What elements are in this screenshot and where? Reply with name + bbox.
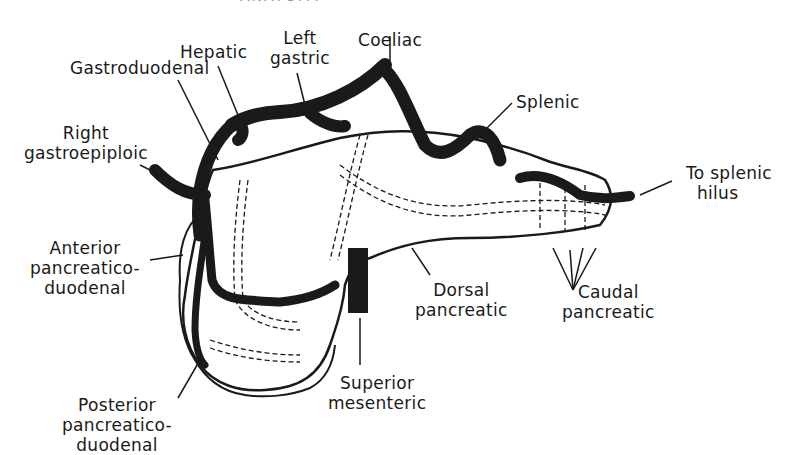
pancreas-blood-supply-diagram: ANATOMY <box>0 0 794 455</box>
label-caudal-pancreatic: Caudal pancreatic <box>562 282 655 322</box>
superior-mesenteric-vessel <box>348 248 368 313</box>
pancreas-outline <box>183 131 611 390</box>
label-superior-mesenteric: Superior mesenteric <box>328 373 426 413</box>
label-left-gastric: Left gastric <box>270 28 330 68</box>
label-to-splenic-hilus: To splenic hilus <box>686 163 772 203</box>
label-splenic: Splenic <box>516 92 580 112</box>
label-gastroduodenal: Gastroduodenal <box>70 58 209 78</box>
label-dorsal-pancreatic: Dorsal pancreatic <box>415 280 508 320</box>
label-coeliac: Coeliac <box>358 30 422 50</box>
intrapancreatic-vessels <box>210 135 605 362</box>
label-anterior-pancreaticoduodenal: Anterior pancreatico- duodenal <box>30 238 140 298</box>
label-posterior-pancreaticoduodenal: Posterior pancreatico- duodenal <box>62 395 172 455</box>
label-right-gastroepiploic: Right gastroepiploic <box>24 123 148 163</box>
